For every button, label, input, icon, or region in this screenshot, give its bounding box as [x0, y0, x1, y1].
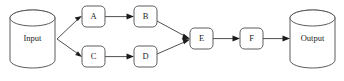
- edge-input-to-c-line: [57, 39, 78, 54]
- edge-f-to-output: [263, 36, 290, 42]
- edge-input-to-a: [57, 16, 82, 39]
- edge-d-to-e-arrowhead: [182, 39, 190, 45]
- diagram-canvas: Input A B C D E F: [0, 0, 344, 81]
- node-c-label: C: [91, 51, 97, 61]
- edge-b-to-e-arrowhead: [182, 34, 190, 40]
- node-input[interactable]: Input: [10, 10, 55, 68]
- node-input-label: Input: [24, 33, 43, 43]
- node-output-cylinder-top: [290, 10, 335, 26]
- flowchart-diagram: Input A B C D E F: [0, 0, 344, 81]
- edge-input-to-c: [57, 39, 82, 57]
- node-a-label: A: [90, 11, 97, 21]
- edge-input-to-a-line: [57, 20, 78, 40]
- edge-b-to-e: [157, 21, 190, 39]
- node-e-label: E: [199, 33, 204, 43]
- node-d[interactable]: D: [134, 46, 157, 67]
- node-d-label: D: [142, 51, 148, 61]
- edge-d-to-e: [157, 39, 190, 54]
- edge-input-to-a-arrowhead: [75, 16, 82, 21]
- node-output-label: Output: [301, 33, 325, 43]
- edge-a-to-b-arrowhead: [127, 14, 135, 20]
- node-b[interactable]: B: [134, 6, 157, 27]
- node-output[interactable]: Output: [290, 10, 335, 68]
- edge-e-to-f: [213, 36, 240, 42]
- node-f-label: F: [249, 33, 254, 43]
- node-a[interactable]: A: [82, 6, 105, 27]
- edge-f-to-output-arrowhead: [283, 36, 291, 42]
- node-e[interactable]: E: [190, 28, 213, 49]
- node-b-label: B: [143, 11, 149, 21]
- edge-d-to-e-line: [157, 42, 185, 54]
- edge-c-to-d-arrowhead: [127, 54, 135, 60]
- edge-e-to-f-arrowhead: [233, 36, 241, 42]
- node-input-cylinder-top: [10, 10, 55, 26]
- edge-b-to-e-line: [157, 21, 185, 36]
- edge-c-to-d: [105, 54, 134, 60]
- node-f[interactable]: F: [240, 28, 263, 49]
- node-c[interactable]: C: [82, 46, 105, 67]
- edge-a-to-b: [105, 14, 134, 20]
